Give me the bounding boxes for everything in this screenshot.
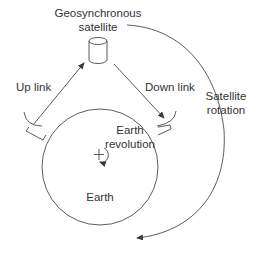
satellite-rotation-label-line2: rotation (207, 104, 245, 116)
downlink-antenna-icon (157, 111, 176, 135)
earth-revolution-label-line1: Earth (116, 124, 144, 136)
uplink-antenna-icon (24, 112, 46, 140)
satellite-icon (89, 38, 107, 64)
up-link-arrow (33, 63, 84, 125)
satellite-diagram: Geosynchronous satellite Up link Down li… (0, 0, 279, 255)
up-link-label: Up link (16, 81, 51, 93)
earth-revolution-label-line2: revolution (105, 138, 155, 150)
earth-label: Earth (86, 191, 114, 203)
satellite-rotation-label-line1: Satellite (206, 90, 247, 102)
satellite-label-line1: Geosynchronous (55, 7, 142, 19)
earth-axis-icon (94, 148, 108, 162)
down-link-label: Down link (145, 81, 195, 93)
satellite-label-line2: satellite (79, 21, 118, 33)
